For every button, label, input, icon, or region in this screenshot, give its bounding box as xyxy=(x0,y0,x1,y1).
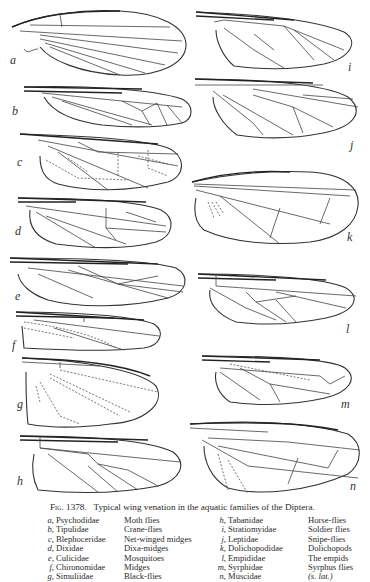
wing-label-n: n xyxy=(350,479,356,494)
wing-label-e: e xyxy=(15,289,20,304)
wing-label-l: l xyxy=(346,322,349,337)
wing-f-chironomidae xyxy=(14,310,162,352)
legend-row-g: g,SimuliidaeBlack-flies xyxy=(44,572,192,581)
legend-letter: g, xyxy=(44,572,54,581)
figure-title: Typical wing venation in the aquatic fam… xyxy=(93,502,314,512)
wing-e-culicidae xyxy=(8,256,186,308)
wing-label-g: g xyxy=(17,397,23,412)
wing-d-dixidae xyxy=(16,196,174,248)
legend-common: (s. lat.) xyxy=(308,572,333,581)
wing-j-leptidae xyxy=(193,77,361,139)
wing-label-i: i xyxy=(348,60,351,75)
legend-left-column: a,PsychodidaeMoth flies b,TipulidaeCrane… xyxy=(44,516,192,582)
wing-label-a: a xyxy=(10,53,16,68)
wing-label-m: m xyxy=(341,397,350,412)
wing-label-b: b xyxy=(12,104,18,119)
wing-d-drawing xyxy=(16,196,174,248)
wing-label-c: c xyxy=(17,155,22,170)
wing-m-drawing xyxy=(200,354,356,408)
caption-title: Fig. 1378. Typical wing venation in the … xyxy=(50,502,315,512)
wing-n-drawing xyxy=(188,420,364,496)
wing-label-f: f xyxy=(12,338,15,353)
wing-i-drawing xyxy=(194,10,354,68)
wing-label-d: d xyxy=(15,224,21,239)
wing-h-tabanidae xyxy=(18,434,182,494)
wing-label-h: h xyxy=(17,474,23,489)
wing-j-drawing xyxy=(193,77,361,139)
wing-b-drawing xyxy=(22,83,192,127)
figure-number: Fig. 1378. xyxy=(50,502,87,512)
wing-a-psychodidae xyxy=(10,5,186,77)
wing-f-drawing xyxy=(14,310,162,352)
legend-row-n: n,Muscidae(s. lat.) xyxy=(216,572,353,581)
wing-g-drawing xyxy=(20,356,162,430)
wing-l-drawing xyxy=(196,272,358,328)
wing-m-syrphidae xyxy=(200,354,356,408)
legend-family: Muscidae xyxy=(228,572,308,581)
legend-common: Black-flies xyxy=(124,572,162,581)
legend-family: Simuliidae xyxy=(56,572,124,581)
wing-c-blephoceridae xyxy=(18,132,186,192)
wing-i-stratiomyidae xyxy=(194,10,354,68)
wing-n-muscidae xyxy=(188,420,364,496)
wing-label-j: j xyxy=(350,138,353,153)
wing-k-drawing xyxy=(190,168,360,248)
wing-b-tipulidae xyxy=(22,83,192,127)
wing-venation-figure: a b c d xyxy=(0,0,370,495)
wing-e-drawing xyxy=(8,256,186,308)
legend-letter: n, xyxy=(216,572,226,581)
wing-g-simuliidae xyxy=(20,356,162,430)
wing-l-empididae xyxy=(196,272,358,328)
wing-label-k: k xyxy=(347,230,352,245)
wing-k-dolichopodidae xyxy=(190,168,360,248)
wing-h-drawing xyxy=(18,434,182,494)
wing-c-drawing xyxy=(18,132,186,192)
legend-right-column: h,TabanidaeHorse-flies i,StratiomyidaeSo… xyxy=(216,516,353,582)
wing-a-drawing xyxy=(10,5,186,77)
